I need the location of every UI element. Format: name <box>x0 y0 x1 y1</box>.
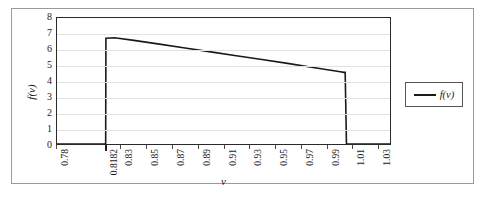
y-tick-label: 7 <box>38 29 52 37</box>
plot-area <box>56 17 391 145</box>
x-tick-label: 0.83 <box>124 149 134 166</box>
series-path <box>57 38 390 144</box>
series-line-fv <box>57 18 390 144</box>
x-tick-label: 1.01 <box>356 149 366 166</box>
y-tick-label: 5 <box>38 61 52 69</box>
x-tick-label: 0.97 <box>305 149 315 166</box>
x-tick-label: 0.91 <box>228 149 238 166</box>
x-tick-label: 0.93 <box>253 149 263 166</box>
legend: f(v) <box>405 82 463 107</box>
x-tick-label: 1.03 <box>382 149 392 166</box>
x-tick-label: 0.99 <box>331 149 341 166</box>
gridline <box>57 34 390 35</box>
y-axis-tick-labels: 012345678 <box>38 17 52 145</box>
y-tick-label: 4 <box>38 77 52 85</box>
gridline <box>57 82 390 83</box>
x-tick-label: 0.8182 <box>109 149 119 175</box>
x-tick-label: 0.78 <box>60 149 70 166</box>
gridline <box>57 50 390 51</box>
y-tick-label: 2 <box>38 109 52 117</box>
x-tick-label: 0.85 <box>150 149 160 166</box>
figure-frame: f(v) 012345678 0.780.81820.830.850.870.8… <box>11 8 474 184</box>
gridline <box>57 130 390 131</box>
y-tick-label: 1 <box>38 125 52 133</box>
gridline <box>57 66 390 67</box>
y-tick-label: 0 <box>38 141 52 149</box>
legend-label-fv: f(v) <box>440 89 455 100</box>
x-axis-title: v <box>56 175 391 187</box>
y-tick-label: 6 <box>38 45 52 53</box>
x-tick-label: 0.87 <box>176 149 186 166</box>
gridline <box>57 98 390 99</box>
legend-line-swatch-fv <box>414 94 436 96</box>
chart-root: f(v) 012345678 0.780.81820.830.850.870.8… <box>12 9 475 185</box>
x-tick-label: 0.95 <box>279 149 289 166</box>
y-tick-label: 3 <box>38 93 52 101</box>
gridline <box>57 114 390 115</box>
x-tick-label: 0.89 <box>202 149 212 166</box>
y-tick-label: 8 <box>38 13 52 21</box>
